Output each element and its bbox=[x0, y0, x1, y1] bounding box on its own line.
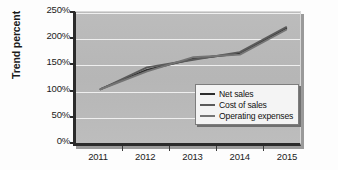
y-axis-tick-mark bbox=[70, 90, 75, 92]
y-axis-tick-mark bbox=[70, 116, 75, 118]
y-axis-tick-label: 200% bbox=[24, 30, 70, 41]
x-axis-tick-label: 2013 bbox=[169, 151, 217, 162]
y-axis-tick-mark bbox=[70, 11, 75, 13]
legend-item[interactable]: Cost of sales bbox=[200, 99, 293, 110]
x-axis-tick-label: 2012 bbox=[121, 151, 169, 162]
x-axis-tick-label: 2011 bbox=[74, 151, 122, 162]
plot-frame bbox=[73, 11, 301, 146]
y-axis-tick-label: 100% bbox=[24, 83, 70, 94]
y-axis-tick-mark bbox=[70, 63, 75, 65]
legend-item[interactable]: Operating expenses bbox=[200, 110, 293, 121]
chart-legend: Net salesCost of salesOperating expenses bbox=[195, 84, 299, 125]
y-axis-tick-mark bbox=[70, 37, 75, 39]
x-axis-tick-label: 2015 bbox=[263, 151, 311, 162]
y-axis-tick-label: 50% bbox=[24, 109, 70, 120]
y-axis-tick-label: 250% bbox=[24, 4, 70, 15]
legend-item[interactable]: Net sales bbox=[200, 88, 293, 99]
y-axis-tick-mark bbox=[70, 142, 75, 144]
legend-item-label: Cost of sales bbox=[219, 100, 267, 110]
y-axis-tick-label: 0% bbox=[24, 135, 70, 146]
series-line bbox=[101, 28, 287, 89]
y-axis-tick-labels: 250%200%150%100%50%0% bbox=[22, 8, 70, 150]
legend-color-swatch bbox=[200, 93, 215, 95]
x-axis-tick-label: 2014 bbox=[216, 151, 264, 162]
x-axis-tick-labels: 20112012201320142015 bbox=[60, 151, 318, 167]
legend-color-swatch bbox=[200, 104, 215, 106]
legend-item-label: Net sales bbox=[219, 89, 253, 99]
trend-percent-chart: Trend percent 250%200%150%100%50%0% 2011… bbox=[0, 0, 338, 170]
legend-item-label: Operating expenses bbox=[219, 111, 293, 121]
legend-color-swatch bbox=[200, 115, 215, 117]
y-axis-tick-label: 150% bbox=[24, 56, 70, 67]
